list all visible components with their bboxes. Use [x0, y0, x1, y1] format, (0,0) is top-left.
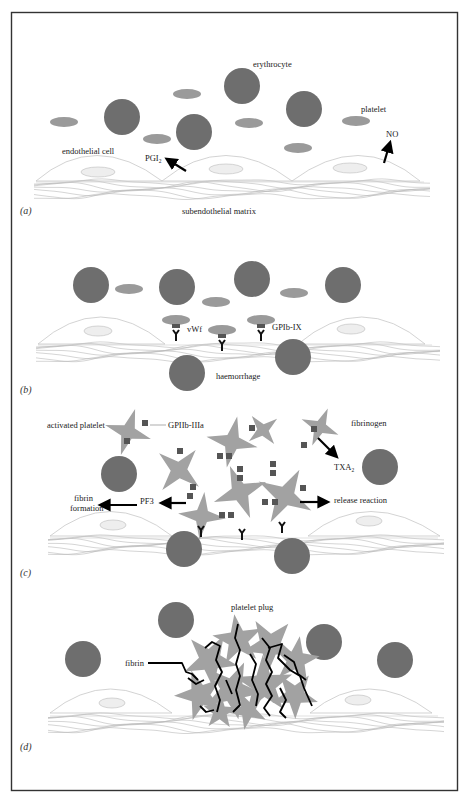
fibrinogen-label: fibrinogen [351, 418, 387, 428]
erythrocyte [362, 449, 398, 485]
erythrocyte [104, 99, 140, 135]
gpib-receptor [257, 324, 265, 328]
platelet [284, 143, 312, 153]
activated-platelet-label: activated platelet [47, 420, 105, 430]
gpiib-receptor [187, 493, 193, 499]
gpiib-receptor [301, 442, 307, 448]
matrix-fiber [36, 345, 440, 355]
platelet [162, 315, 190, 325]
platelet-plug-label: platelet plug [231, 602, 274, 612]
erythrocyte [325, 267, 361, 303]
gpib-label: GPIb-IX [272, 322, 302, 332]
panel-label-c: (c) [20, 567, 32, 579]
txa2-arrow [318, 438, 334, 454]
erythrocyte [166, 531, 202, 567]
gpiib-receptor [177, 448, 183, 454]
panel-b: vWf GPIb-IX haemorrhage (b) [20, 261, 440, 396]
gpiib-receptor [142, 420, 148, 426]
platelet [115, 284, 143, 294]
haemostasis-figure: erythrocyte platelet endothelial cell PG… [0, 0, 467, 802]
platelet-label: platelet [361, 104, 387, 114]
matrix-fiber [34, 182, 430, 192]
gpiib-receptor [270, 470, 276, 476]
activated-platelet [105, 409, 151, 455]
nucleus [81, 167, 115, 177]
erythrocyte [169, 355, 205, 391]
nucleus [209, 164, 243, 174]
nucleus [337, 324, 365, 334]
erythrocyte [101, 456, 137, 492]
erythrocyte [224, 68, 260, 104]
panel-c: activated platelet GPIIb-IIIa fibrinogen… [20, 409, 444, 579]
panel-d: platelet plug fibrin (d) [20, 602, 444, 753]
adherent-platelet [162, 315, 190, 341]
erythrocyte [159, 269, 195, 305]
platelet [208, 325, 236, 335]
gpib-receptor [172, 324, 180, 328]
matrix-fiber [34, 180, 430, 188]
gpiib-receptor [270, 461, 276, 467]
adherent-platelet [208, 325, 236, 351]
pgi2-label: PGI2 [145, 153, 162, 164]
gpiib-receptor [237, 475, 243, 481]
panel-a: erythrocyte platelet endothelial cell PG… [20, 59, 430, 217]
panel-label-b: (b) [20, 384, 32, 396]
txa2-label: TXA2 [334, 462, 354, 473]
activated-platelet [214, 466, 266, 518]
gpiib-receptor [249, 425, 255, 431]
gpiib-receptor [226, 453, 232, 459]
fibrin-label: fibrin [125, 658, 145, 668]
platelet [247, 315, 275, 325]
activated-platelet [159, 450, 199, 490]
erythrocyte [275, 339, 311, 375]
nucleus [100, 520, 126, 530]
gpiib-receptor [124, 438, 130, 444]
matrix-layer [34, 179, 430, 200]
nucleus [345, 695, 371, 705]
erythrocyte [234, 261, 270, 297]
gpiib-receptor [190, 484, 196, 490]
nucleus [333, 163, 367, 173]
erythrocyte [158, 602, 194, 638]
platelet [280, 288, 308, 298]
erythrocyte [73, 267, 109, 303]
erythrocyte [377, 642, 413, 678]
endothelial-cell-label: endothelial cell [62, 146, 115, 156]
activated-platelet [259, 470, 312, 523]
gpiib-receptor [262, 499, 268, 505]
platelet [173, 89, 201, 99]
gpiib-receptor [228, 512, 234, 518]
gpiib-receptor [219, 512, 225, 518]
panel-label-a: (a) [20, 205, 32, 217]
nucleus [84, 326, 112, 336]
matrix-layer [48, 535, 444, 556]
matrix-label: subendothelial matrix [182, 206, 257, 216]
erythrocyte [286, 91, 322, 127]
erythrocyte [274, 538, 310, 574]
pf3-label: PF3 [140, 496, 154, 506]
gpib-receptor [218, 334, 226, 338]
matrix-fiber [34, 186, 430, 192]
vwf-icon [173, 330, 179, 341]
adherent-platelet [247, 315, 275, 341]
erythrocyte [306, 624, 342, 660]
nucleus [99, 698, 125, 708]
fibrin-formation-line2: formation [70, 503, 104, 513]
activated-platelet [207, 417, 258, 468]
endothelial-cells [50, 512, 440, 537]
erythrocyte-label: erythrocyte [253, 59, 292, 69]
matrix-fiber [48, 536, 444, 544]
gpiib-receptor [300, 485, 306, 491]
endothelial-cells [36, 156, 420, 182]
fibrin-leader [148, 663, 198, 680]
platelet [50, 117, 78, 127]
nucleus [356, 516, 382, 526]
erythrocyte [176, 114, 212, 150]
gpiib-receptor [272, 499, 278, 505]
activated-platelets [105, 409, 338, 540]
vwf-label: vWf [187, 324, 202, 334]
txa2-subscript: 2 [351, 467, 354, 473]
txa2-text: TXA [334, 462, 352, 472]
gpiib-receptor [237, 466, 243, 472]
vwf-icon [219, 340, 225, 351]
